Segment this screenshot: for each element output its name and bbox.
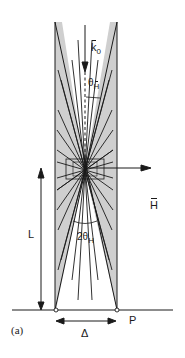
- right-point-marker: [115, 308, 119, 312]
- thickness-label: L: [28, 229, 34, 240]
- reciprocal-vector-label: H: [150, 200, 158, 211]
- h-symbol: H: [150, 200, 158, 211]
- panel-label: (a): [11, 325, 23, 336]
- bragg-angle-label: θH: [88, 78, 99, 91]
- panel-label-text: (a): [11, 324, 23, 336]
- k-subscript: 0: [97, 47, 101, 56]
- double-angle-label: 2θH: [77, 232, 94, 245]
- base-width-label: Δ: [81, 328, 88, 339]
- two-theta-subscript: H: [88, 236, 94, 245]
- left-point-marker: [54, 308, 58, 312]
- l-symbol: L: [28, 228, 34, 240]
- delta-symbol: Δ: [81, 327, 88, 339]
- base-width-arrow: [56, 318, 116, 324]
- two-theta-symbol: 2θ: [77, 231, 88, 242]
- incident-wavevector-label: k0: [91, 42, 101, 56]
- k-symbol: k: [91, 42, 97, 53]
- theta-subscript: H: [94, 83, 100, 91]
- point-label: P: [129, 315, 136, 326]
- p-symbol: P: [129, 314, 136, 326]
- thickness-arrow: [38, 168, 44, 310]
